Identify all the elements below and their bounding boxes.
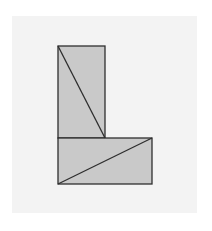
- l-shape-diagram: [0, 0, 212, 231]
